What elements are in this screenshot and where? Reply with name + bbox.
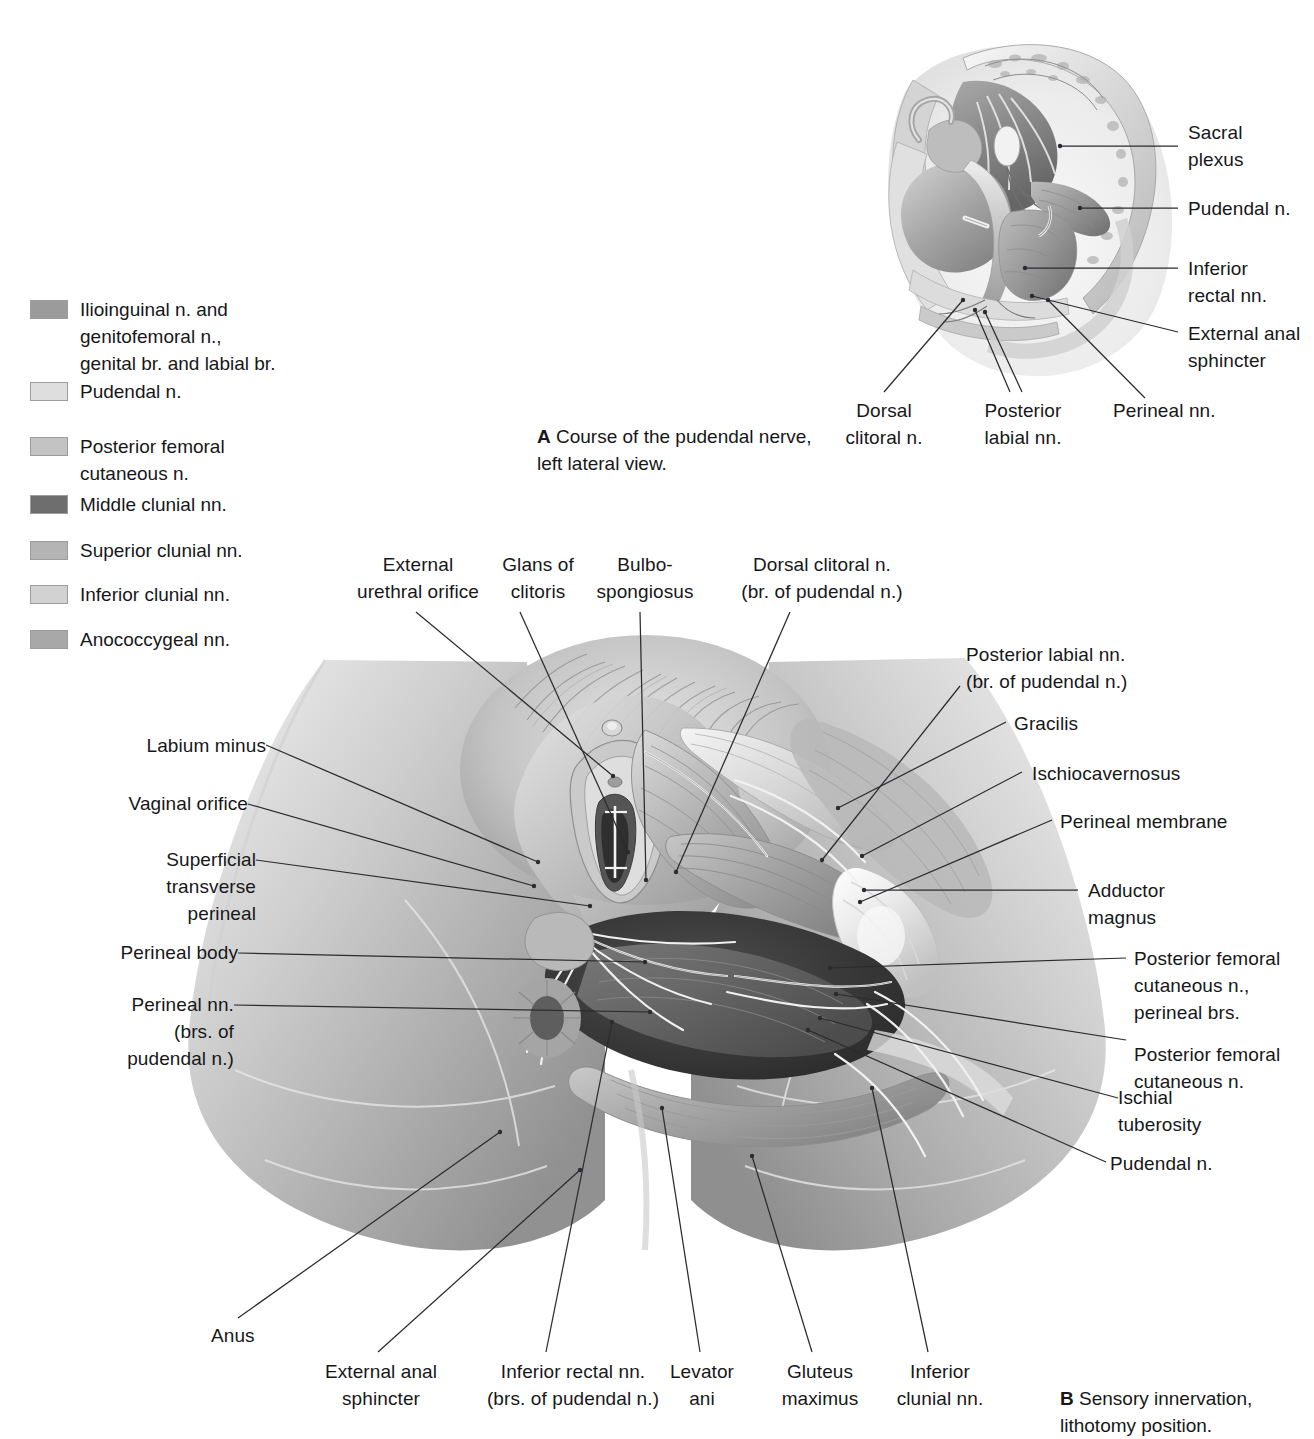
label-posterior-labial-nn-a: Posterior labial nn. bbox=[958, 397, 1088, 451]
figure-a-illustration bbox=[835, 22, 1180, 392]
label-inferior-clunial-nn: Inferior clunial nn. bbox=[872, 1358, 1008, 1412]
figure-b-caption: B Sensory innervation, lithotomy positio… bbox=[1060, 1358, 1314, 1439]
figure-b-illustration bbox=[175, 600, 1115, 1300]
legend-label: Ilioinguinal n. and genitofemoral n., ge… bbox=[80, 296, 275, 377]
legend: Ilioinguinal n. and genitofemoral n., ge… bbox=[30, 296, 330, 666]
label-bulbospongiosus: Bulbo- spongiosus bbox=[580, 551, 710, 605]
legend-item: Pudendal n. bbox=[30, 378, 330, 433]
label-gracilis: Gracilis bbox=[1014, 710, 1194, 737]
label-pudendal-n-a: Pudendal n. bbox=[1188, 195, 1313, 222]
label-pfc-perineal-brs: Posterior femoral cutaneous n., perineal… bbox=[1134, 945, 1314, 1026]
legend-swatch bbox=[30, 495, 68, 514]
label-pudendal-n-b: Pudendal n. bbox=[1110, 1150, 1280, 1177]
legend-label: Posterior femoral cutaneous n. bbox=[80, 433, 225, 487]
legend-label: Anococcygeal nn. bbox=[80, 626, 230, 653]
label-superficial-transverse-perineal: Superficial transverse perineal bbox=[56, 846, 256, 927]
label-adductor-magnus: Adductor magnus bbox=[1088, 877, 1238, 931]
label-dorsal-clitoral-n-a: Dorsal clitoral n. bbox=[828, 397, 940, 451]
figure-a-caption: A Course of the pudendal nerve, left lat… bbox=[537, 396, 817, 477]
label-perineal-membrane: Perineal membrane bbox=[1060, 808, 1280, 835]
legend-item: Inferior clunial nn. bbox=[30, 581, 330, 626]
figure-a-letter: A bbox=[537, 426, 551, 447]
legend-item: Posterior femoral cutaneous n. bbox=[30, 433, 330, 491]
legend-label: Superior clunial nn. bbox=[80, 537, 243, 564]
label-external-anal-sphincter-a: External anal sphincter bbox=[1188, 320, 1314, 374]
label-labium-minus: Labium minus bbox=[66, 732, 266, 759]
label-perineal-body: Perineal body bbox=[38, 939, 238, 966]
label-vaginal-orifice: Vaginal orifice bbox=[48, 790, 248, 817]
legend-swatch bbox=[30, 630, 68, 649]
legend-swatch bbox=[30, 300, 68, 319]
label-inferior-rectal-nn-a: Inferior rectal nn. bbox=[1188, 255, 1308, 309]
legend-label: Pudendal n. bbox=[80, 378, 181, 405]
label-inferior-rectal-nn-b: Inferior rectal nn. (brs. of pudendal n.… bbox=[460, 1358, 686, 1412]
label-sacral-plexus: Sacral plexus bbox=[1188, 119, 1308, 173]
legend-swatch bbox=[30, 437, 68, 456]
legend-swatch bbox=[30, 541, 68, 560]
label-dorsal-clitoral-n-b: Dorsal clitoral n. (br. of pudendal n.) bbox=[712, 551, 932, 605]
label-posterior-labial-nn-b: Posterior labial nn. (br. of pudendal n.… bbox=[966, 641, 1206, 695]
label-external-anal-sphincter-b: External anal sphincter bbox=[308, 1358, 454, 1412]
figure-b-caption-text: Sensory innervation, lithotomy position. bbox=[1060, 1388, 1252, 1436]
legend-item: Ilioinguinal n. and genitofemoral n., ge… bbox=[30, 296, 330, 378]
label-levator-ani: Levator ani bbox=[654, 1358, 750, 1412]
label-ischial-tuberosity: Ischial tuberosity bbox=[1118, 1084, 1278, 1138]
legend-swatch bbox=[30, 585, 68, 604]
label-ischiocavernosus: Ischiocavernosus bbox=[1032, 760, 1242, 787]
legend-item: Superior clunial nn. bbox=[30, 537, 330, 581]
label-perineal-nn-b: Perineal nn. (brs. of pudendal n.) bbox=[34, 991, 234, 1072]
legend-label: Middle clunial nn. bbox=[80, 491, 227, 518]
legend-label: Inferior clunial nn. bbox=[80, 581, 230, 608]
label-gluteus-maximus: Gluteus maximus bbox=[758, 1358, 882, 1412]
legend-swatch bbox=[30, 382, 68, 401]
figure-a-caption-text: Course of the pudendal nerve, left later… bbox=[537, 426, 812, 474]
legend-item: Middle clunial nn. bbox=[30, 491, 330, 537]
label-anus: Anus bbox=[211, 1322, 311, 1349]
label-perineal-nn-a: Perineal nn. bbox=[1113, 397, 1253, 424]
legend-item: Anococcygeal nn. bbox=[30, 626, 330, 666]
figure-b-letter: B bbox=[1060, 1388, 1074, 1409]
